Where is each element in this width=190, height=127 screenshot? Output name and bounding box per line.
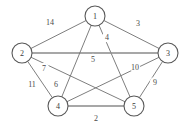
graph-diagram: 12345 1434571161092 xyxy=(0,0,190,127)
edge-weight-3-5: 9 xyxy=(153,78,157,87)
edge-weight-1-5: 4 xyxy=(105,33,109,42)
edge-weight-2-4: 11 xyxy=(28,80,36,89)
graph-node-label-5: 5 xyxy=(132,102,136,111)
graph-edge-1-4 xyxy=(62,25,91,97)
edge-weight-1-2: 14 xyxy=(46,18,54,27)
edge-weight-1-3: 3 xyxy=(136,19,140,28)
graph-node-label-1: 1 xyxy=(93,12,97,21)
graph-edge-3-4 xyxy=(67,57,159,101)
edge-weight-4-5: 2 xyxy=(94,114,98,123)
graph-node-label-4: 4 xyxy=(56,102,60,111)
graph-node-label-3: 3 xyxy=(166,49,170,58)
edge-weight-2-5: 7 xyxy=(42,64,46,73)
graph-edge-1-3 xyxy=(104,21,159,49)
graph-edge-1-2 xyxy=(31,21,86,49)
edge-weight-3-4: 10 xyxy=(131,63,139,72)
graph-node-label-2: 2 xyxy=(20,49,24,58)
edge-weight-1-4: 6 xyxy=(54,80,58,89)
graph-canvas: 12345 1434571161092 xyxy=(0,0,190,127)
edge-weight-2-3: 5 xyxy=(91,55,95,64)
